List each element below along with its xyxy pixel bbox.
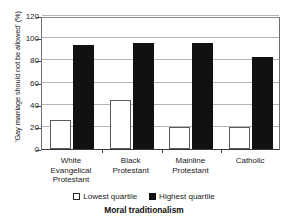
x-category-label-line: Protestant	[101, 166, 161, 176]
bar	[192, 43, 213, 149]
x-axis-title: Moral traditionalism	[0, 205, 288, 215]
x-category-label-line: Black	[101, 156, 161, 166]
x-category-label-line: Mainline	[161, 156, 221, 166]
gridline	[42, 15, 279, 16]
x-category-label: WhiteEvangelicalProtestant	[41, 156, 101, 185]
bar	[50, 120, 71, 149]
legend-label: Lowest quartile	[83, 192, 137, 201]
bar	[229, 127, 250, 149]
legend-label: Highest quartile	[159, 192, 215, 201]
y-tick-label: 40	[9, 102, 39, 110]
x-axis-category-labels: WhiteEvangelicalProtestantBlackProtestan…	[41, 156, 280, 192]
bar	[110, 100, 131, 149]
x-category-label: Catholic	[220, 156, 280, 166]
bar	[133, 43, 154, 149]
legend-item: Highest quartile	[149, 192, 215, 201]
black-square-icon	[149, 193, 156, 200]
y-tick-label: 60	[9, 80, 39, 88]
y-tick-label: 120	[9, 13, 39, 21]
x-category-label-line: Evangelical	[41, 166, 101, 176]
x-category-label-line: White	[41, 156, 101, 166]
category-separator	[102, 149, 103, 153]
category-separator	[221, 149, 222, 153]
y-tick-label: 80	[9, 57, 39, 65]
x-category-label: MainlineProtestant	[161, 156, 221, 175]
x-category-label-line: Protestant	[41, 175, 101, 185]
white-square-icon	[73, 193, 80, 200]
plot-area	[41, 17, 280, 150]
y-tick-label: 100	[9, 35, 39, 43]
y-tick-label: 20	[9, 124, 39, 132]
category-separator	[162, 149, 163, 153]
x-category-label-line: Catholic	[220, 156, 280, 166]
legend-item: Lowest quartile	[73, 192, 137, 201]
bar-chart: 'Gay marriage should not be allowed' (%)…	[0, 0, 288, 218]
bar	[73, 45, 94, 149]
x-category-label-line: Protestant	[161, 166, 221, 176]
y-tick-label: 0	[9, 146, 39, 154]
gridline	[42, 37, 279, 38]
x-category-label: BlackProtestant	[101, 156, 161, 175]
bar	[169, 127, 190, 149]
bar	[252, 57, 273, 149]
y-tick-mark	[36, 150, 41, 151]
chart-legend: Lowest quartileHighest quartile	[0, 192, 288, 201]
